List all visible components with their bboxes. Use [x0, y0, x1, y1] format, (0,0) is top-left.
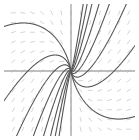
slope-field-figure [0, 0, 139, 140]
plot-canvas [0, 0, 139, 140]
